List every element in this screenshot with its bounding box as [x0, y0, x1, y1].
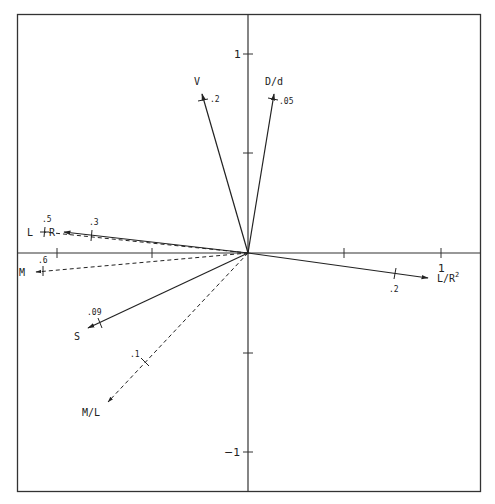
vector-L-label: L [27, 227, 33, 238]
vector-V-label: V [194, 76, 200, 87]
vector-Dd-label: D/d [265, 76, 283, 87]
vector-M-label: M [19, 267, 25, 278]
vector-R [44, 232, 248, 253]
vector-LR2 [248, 253, 428, 278]
vector-ML-tick [141, 358, 149, 366]
vector-M [36, 253, 248, 272]
vector-R-label: R [49, 227, 56, 238]
vector-Dd [248, 94, 274, 253]
vector-LR2-label: L/R2 [437, 271, 459, 284]
vector-ML-label: M/L [82, 407, 100, 418]
y-tick-label-1: 1 [234, 48, 241, 61]
vector-S-tick-label: .09 [87, 308, 102, 317]
vector-S [88, 253, 248, 328]
biplot-diagram: 1 −1 1 V .2 D/d .05 L/R2 .2 L .3 R .5 M … [0, 0, 495, 504]
vector-ML-tick-label: .1 [130, 350, 140, 359]
vector-L-tick [91, 230, 92, 241]
vector-M-tick-label: .6 [38, 256, 48, 265]
vector-R-tick-label: .5 [42, 215, 52, 224]
vector-S-label: S [74, 331, 80, 342]
vector-Dd-tick-label: .05 [279, 97, 294, 106]
vector-ML [108, 253, 248, 402]
vector-V [202, 94, 248, 253]
y-tick-label-neg1: −1 [224, 446, 240, 459]
vector-LR2-tick-label: .2 [389, 285, 399, 294]
vector-L-tick-label: .3 [89, 218, 99, 227]
vector-V-tick-label: .2 [210, 95, 220, 104]
